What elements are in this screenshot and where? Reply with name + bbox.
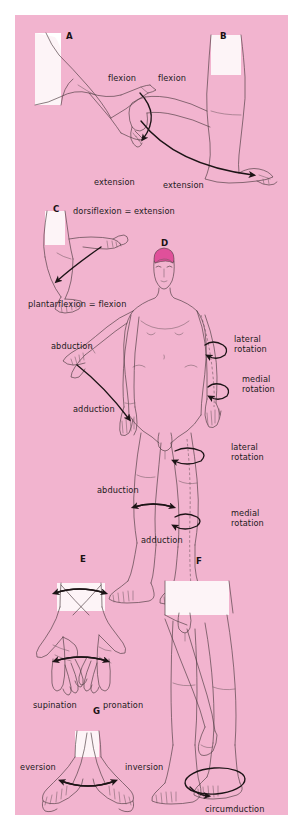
label-medial-rotation-leg-line2: rotation (231, 519, 264, 529)
panel-letter-a: A (66, 32, 73, 41)
label-circumduction: circumduction (205, 805, 265, 815)
panel-g-artwork (42, 731, 133, 812)
label-eversion: eversion (20, 763, 56, 773)
label-lateral-rotation-leg-line2: rotation (231, 453, 264, 463)
label-flexion-elbow: flexion (108, 74, 136, 84)
panel-a-artwork (35, 33, 156, 140)
anatomical-artwork (15, 15, 288, 815)
panel-f-artwork (152, 581, 246, 804)
panel-letter-c: C (53, 205, 59, 214)
label-dorsiflexion: dorsiflexion = extension (73, 207, 175, 217)
panel-letter-d: D (161, 239, 168, 248)
illustration-panel: A B C D E F G flexion extension flexion … (15, 15, 288, 815)
label-flexion-knee: flexion (158, 74, 186, 84)
label-lateral-rotation-arm-line2: rotation (234, 345, 267, 355)
label-extension-elbow: extension (94, 178, 135, 188)
label-adduction-leg: adduction (141, 536, 183, 546)
label-adduction-arm: adduction (73, 405, 115, 415)
panel-letter-g: G (93, 707, 100, 716)
label-pronation: pronation (103, 701, 143, 711)
panel-e-artwork (36, 583, 125, 695)
label-extension-knee: extension (163, 181, 204, 191)
panel-c-artwork (44, 211, 128, 313)
label-abduction-leg: abduction (97, 486, 139, 496)
label-inversion: inversion (125, 763, 163, 773)
label-supination: supination (33, 701, 77, 711)
label-medial-rotation-arm-line2: rotation (242, 385, 275, 395)
panel-letter-e: E (80, 555, 86, 564)
label-abduction-arm: abduction (51, 342, 93, 352)
label-plantarflexion: plantarflexion = flexion (28, 300, 126, 310)
figure-root: A B C D E F G flexion extension flexion … (0, 0, 302, 825)
panel-letter-f: F (196, 557, 202, 566)
panel-b-artwork (129, 35, 277, 185)
panel-letter-b: B (220, 32, 227, 41)
